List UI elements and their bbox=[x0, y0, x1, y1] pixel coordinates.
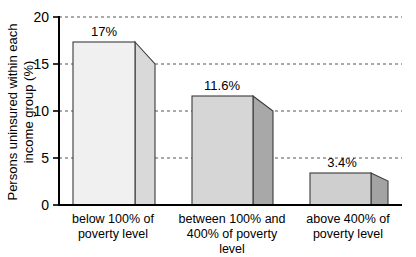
bar-1-side-face bbox=[253, 96, 273, 205]
bar-2-value-label: 3.4% bbox=[327, 155, 357, 170]
chart-canvas: 17% 11.6% 3.4% 20 bbox=[0, 0, 416, 257]
x-label-1-line-2: 400% of poverty bbox=[187, 227, 278, 241]
bar-chart-figure: 17% 11.6% 3.4% 20 bbox=[0, 0, 416, 257]
bar-0-side-face bbox=[135, 42, 155, 205]
y-tick-label-5: 5 bbox=[41, 150, 49, 166]
y-tick-label-20: 20 bbox=[33, 9, 49, 25]
bar-1-front-face bbox=[192, 96, 253, 205]
bar-0-value-label: 17% bbox=[91, 24, 117, 39]
x-label-1-line-3: level bbox=[219, 242, 245, 256]
x-label-2-line-2: poverty level bbox=[313, 227, 383, 241]
x-label-0-line-2: poverty level bbox=[78, 227, 148, 241]
bar-group-0[interactable]: 17% bbox=[73, 24, 155, 205]
y-axis-title-line-1: Persons uninsured within each bbox=[5, 23, 20, 200]
bar-2-front-face bbox=[310, 173, 371, 205]
x-label-2-line-1: above 400% of bbox=[306, 212, 390, 226]
x-label-0-line-1: below 100% of bbox=[72, 212, 155, 226]
bar-0-front-face bbox=[73, 42, 135, 205]
y-axis-title-line-2: income group (%) bbox=[21, 61, 36, 164]
bar-1-value-label: 11.6% bbox=[204, 78, 240, 93]
x-label-1-line-1: between 100% and bbox=[178, 212, 285, 226]
y-tick-label-0: 0 bbox=[41, 197, 49, 213]
